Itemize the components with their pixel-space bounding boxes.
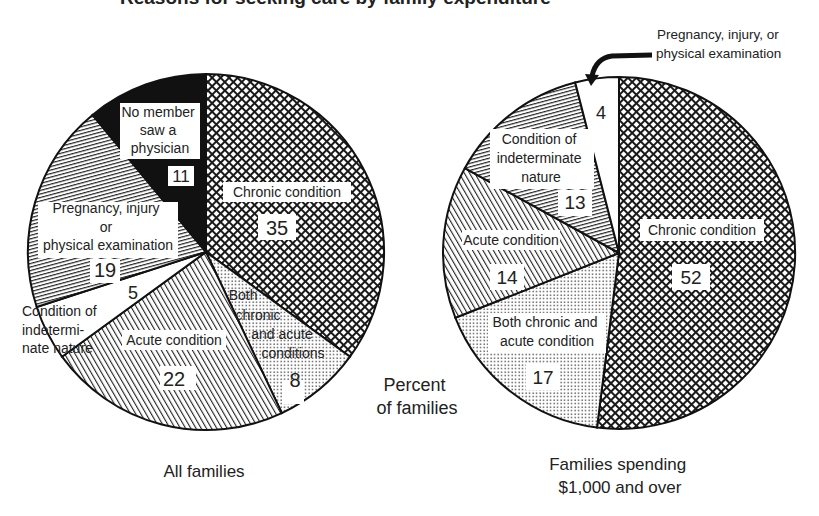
label-chronic: Chronic condition [648, 222, 756, 238]
value-acute: 22 [163, 368, 185, 390]
pie-charts: No member saw a physician 11 Chronic con… [0, 0, 819, 516]
slice-chronic[interactable] [597, 77, 795, 429]
label-chronic: Chronic condition [233, 184, 341, 200]
value-both: 17 [532, 367, 553, 388]
pie-families-spending-1000: 4 Condition of indeterminate nature 13 A… [443, 77, 795, 429]
pie-all-families: No member saw a physician 11 Chronic con… [22, 74, 384, 430]
center-caption: Percent of families [376, 375, 457, 418]
label-acute: Acute condition [126, 332, 222, 348]
value-pregnancy: 4 [596, 103, 606, 123]
caption-all-families: All families [163, 462, 244, 481]
value-chronic: 52 [680, 267, 701, 288]
caption-families-spending: Families spending $1,000 and over [549, 455, 691, 497]
label-pregnancy-callout: Pregnancy, injury, or physical examinati… [656, 27, 783, 61]
value-indeterminate: 5 [128, 283, 138, 303]
value-pregnancy: 19 [94, 259, 116, 281]
value-both: 8 [289, 369, 300, 391]
value-indeterminate: 13 [564, 192, 585, 213]
value-acute: 14 [496, 267, 518, 288]
label-acute: Acute condition [463, 232, 559, 248]
value-chronic: 35 [266, 217, 288, 239]
value-no-member: 11 [172, 167, 190, 186]
